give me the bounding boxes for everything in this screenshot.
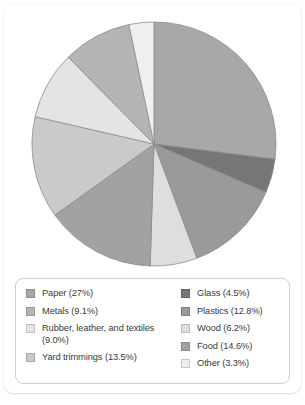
legend-item[interactable]: Food (14.6%) [181, 341, 287, 353]
pie-slice-group [32, 22, 276, 266]
legend-item-label: Other (3.3%) [197, 358, 249, 370]
legend-item-label: Paper (27%) [42, 288, 93, 300]
legend-swatch-icon [181, 324, 190, 333]
legend-item-label: Rubber, leather, and textiles (9.0%) [42, 323, 154, 346]
legend-item[interactable]: Paper (27%) [26, 288, 178, 300]
legend-item-label: Plastics (12.8%) [197, 306, 263, 318]
legend-item-label: Yard trimmings (13.5%) [42, 352, 137, 364]
legend-column-right: Glass (4.5%)Plastics (12.8%)Wood (6.2%)F… [181, 288, 287, 376]
pie-chart [30, 18, 278, 270]
legend-item-label: Glass (4.5%) [197, 288, 250, 300]
legend-item[interactable]: Other (3.3%) [181, 358, 287, 370]
legend-item[interactable]: Wood (6.2%) [181, 323, 287, 335]
legend-swatch-icon [26, 289, 35, 298]
legend-item-label: Metals (9.1%) [42, 306, 98, 318]
legend-swatch-icon [181, 359, 190, 368]
pie-slice [154, 22, 276, 159]
legend-swatch-icon [26, 307, 35, 316]
pie-chart-svg [30, 18, 278, 270]
legend-item[interactable]: Plastics (12.8%) [181, 306, 287, 318]
chart-card: Paper (27%)Metals (9.1%)Rubber, leather,… [4, 4, 301, 393]
legend-swatch-icon [181, 342, 190, 351]
legend-item[interactable]: Rubber, leather, and textiles (9.0%) [26, 323, 178, 346]
legend-swatch-icon [181, 289, 190, 298]
legend-column-left: Paper (27%)Metals (9.1%)Rubber, leather,… [26, 288, 178, 370]
legend-swatch-icon [181, 307, 190, 316]
legend-swatch-icon [26, 353, 35, 362]
legend-item[interactable]: Metals (9.1%) [26, 306, 178, 318]
legend-item[interactable]: Yard trimmings (13.5%) [26, 352, 178, 364]
legend-item-label: Wood (6.2%) [197, 323, 250, 335]
legend-swatch-icon [26, 324, 35, 333]
legend-item[interactable]: Glass (4.5%) [181, 288, 287, 300]
chart-legend: Paper (27%)Metals (9.1%)Rubber, leather,… [15, 278, 290, 384]
legend-item-label: Food (14.6%) [197, 341, 252, 353]
